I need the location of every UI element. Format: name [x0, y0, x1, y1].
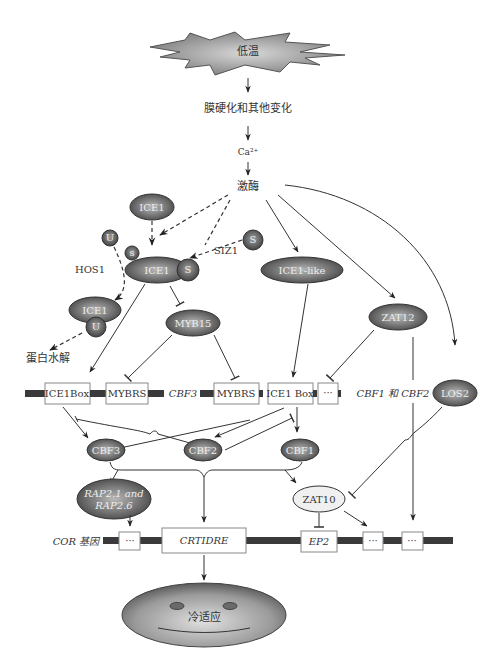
gene-cbf12-label: CBF1 和 CBF2	[357, 388, 430, 399]
inhibit-los2-zat10	[352, 407, 442, 495]
svg-text:S: S	[250, 234, 257, 245]
cold-acclimation-face: 冷适应	[122, 583, 286, 647]
sumo-right: S	[243, 230, 263, 250]
svg-text:ZAT12: ZAT12	[381, 312, 414, 323]
ice1-degraded-node: ICE1 U	[69, 297, 121, 337]
svg-text:ICE1: ICE1	[144, 265, 169, 276]
svg-text:MYB15: MYB15	[175, 318, 212, 329]
inhibit-zat12-box	[330, 330, 374, 378]
svg-text:U: U	[106, 232, 114, 243]
svg-text:CBF3: CBF3	[92, 445, 120, 456]
rap-node: RAP2.1 and RAP2.6	[77, 479, 151, 519]
svg-text:RAP2.1 and: RAP2.1 and	[83, 488, 143, 499]
svg-text:s: s	[129, 247, 134, 258]
cor-gene-row: COR 基因 ··· CRTIDRE EP2 ··· ···	[53, 528, 453, 553]
svg-text:···: ···	[368, 535, 378, 546]
svg-text:MYBRS: MYBRS	[217, 388, 256, 399]
gene-cbf3-label: CBF3	[169, 388, 197, 399]
inhibit-ice1-myb15	[170, 286, 180, 304]
zat12-node: ZAT12	[369, 304, 427, 330]
kinase-label: 激酶	[237, 179, 259, 193]
arrow-cbf-to-zat10	[285, 470, 296, 483]
arrow-ice1like-to-ice1box	[293, 284, 308, 377]
svg-text:ICE1 Box: ICE1 Box	[266, 388, 314, 399]
proteolysis-label: 蛋白水解	[26, 351, 70, 365]
svg-text:S: S	[185, 264, 192, 275]
cbf2-node: CBF2	[184, 439, 222, 461]
left-eye-icon	[170, 603, 184, 610]
siz1-label: SIZ1	[214, 245, 238, 256]
inhibit-myb15-mybrs1	[128, 335, 172, 378]
arrow-ice1box-to-cbf3	[63, 407, 88, 438]
los2-node: LOS2	[433, 380, 477, 406]
svg-text:CBF1: CBF1	[286, 445, 314, 456]
svg-text:LOS2: LOS2	[441, 388, 469, 399]
svg-text:ICE1: ICE1	[139, 202, 164, 213]
cbf1-node: CBF1	[281, 439, 319, 461]
cbf3-inhibits-cbf2	[120, 420, 250, 448]
cbf-bracket	[110, 462, 302, 477]
svg-text:MYBRS: MYBRS	[108, 388, 147, 399]
membrane-change-label: 膜硬化和其他变化	[204, 101, 292, 115]
svg-text:U: U	[92, 321, 100, 332]
svg-text:CRTIDRE: CRTIDRE	[180, 535, 229, 546]
hos1-label: HOS1	[75, 264, 105, 275]
arrow-zat10-to-cor	[344, 511, 367, 526]
svg-text:ICE1-like: ICE1-like	[278, 265, 325, 276]
ice1-top-node: ICE1	[130, 194, 174, 220]
svg-text:···: ···	[323, 387, 333, 398]
svg-text:RAP2.6: RAP2.6	[94, 500, 133, 511]
right-eye-icon	[223, 603, 237, 610]
svg-text:ICE1: ICE1	[82, 305, 107, 316]
svg-text:ICE1Box: ICE1Box	[45, 388, 90, 399]
svg-text:···: ···	[125, 535, 135, 546]
myb15-node: MYB15	[166, 310, 220, 336]
svg-text:CBF2: CBF2	[189, 445, 217, 456]
cold-label: 低温	[237, 45, 259, 58]
inhibit-myb15-mybrs2	[214, 335, 235, 378]
arrow-hos1-ubiquitination	[114, 247, 124, 300]
ice1-center-node: ICE1 s S	[125, 246, 199, 283]
cold-acclimation-label: 冷适应	[188, 610, 221, 624]
svg-text:EP2: EP2	[308, 536, 329, 547]
arrow-to-proteolysis	[50, 333, 82, 350]
svg-text:ZAT10: ZAT10	[302, 494, 335, 505]
cbf2-inhibits-cbf3-path	[76, 419, 190, 443]
arrow-ice1box-to-cbf2	[215, 408, 284, 437]
ice1-like-node: ICE1-like	[261, 257, 343, 283]
cold-signaling-diagram: 低温 膜硬化和其他变化 Ca²⁺ 激酶 ICE1 U HOS1 S SIZ1 I…	[0, 0, 495, 665]
cbf3-node: CBF3	[87, 439, 125, 461]
cold-stimulus-burst: 低温	[150, 32, 345, 75]
ubiquitin-top: U	[102, 230, 118, 246]
cbf-promoter-row: ICE1Box MYBRS CBF3 MYBRS ICE1 Box ··· CB…	[25, 383, 429, 404]
svg-text:···: ···	[407, 535, 417, 546]
calcium-label: Ca²⁺	[238, 147, 259, 157]
zat10-node: ZAT10	[293, 486, 345, 512]
cor-gene-label: COR 基因	[53, 536, 102, 547]
